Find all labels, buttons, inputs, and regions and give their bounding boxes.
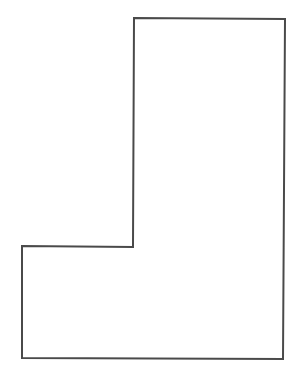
l-shaped-polygon [22,18,285,359]
diagram-canvas [0,0,303,375]
